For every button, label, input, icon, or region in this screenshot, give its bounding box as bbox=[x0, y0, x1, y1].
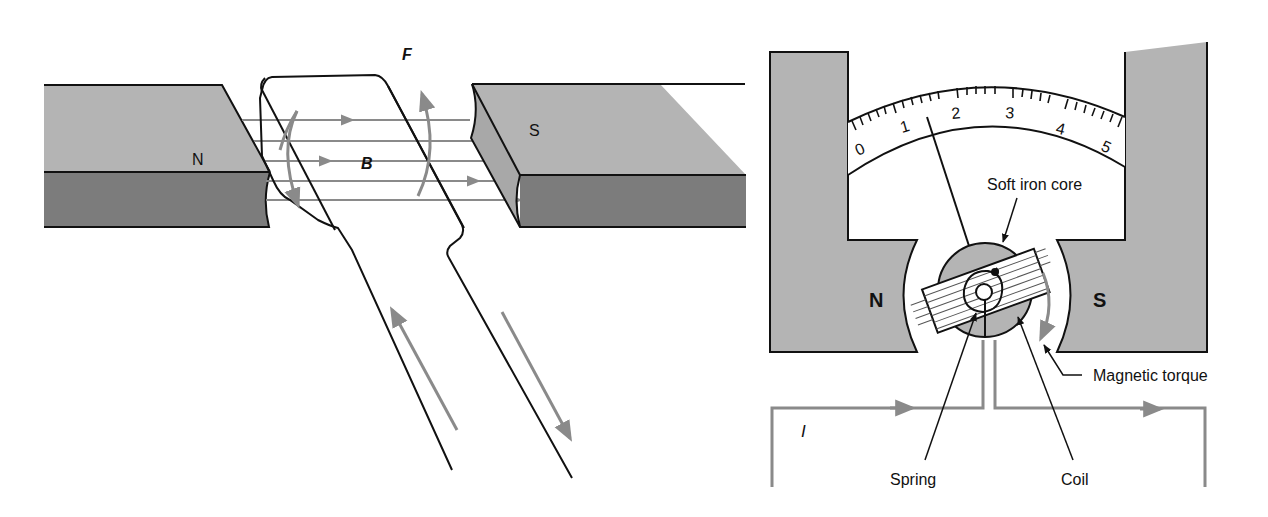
leader-spring bbox=[925, 313, 976, 460]
meter-scale: 0 1 2 3 4 5 bbox=[848, 86, 1125, 175]
diagram-canvas: N B S bbox=[0, 0, 1268, 517]
north-pole-label: N bbox=[192, 151, 204, 168]
left-figure: N B S bbox=[44, 46, 746, 478]
scale-label-3: 3 bbox=[1005, 104, 1015, 122]
scale-label-2: 2 bbox=[951, 104, 962, 122]
current-arrow-up bbox=[392, 310, 457, 430]
callout-spring: Spring bbox=[890, 471, 936, 488]
callout-magnetic-torque: Magnetic torque bbox=[1093, 367, 1208, 384]
galvanometer-north-magnet bbox=[770, 52, 917, 352]
right-figure-galvanometer: N S bbox=[770, 42, 1208, 488]
force-label-f: F bbox=[402, 46, 413, 63]
field-label-b: B bbox=[361, 155, 373, 172]
callout-coil: Coil bbox=[1061, 471, 1089, 488]
current-label-i: I bbox=[801, 422, 806, 441]
galvanometer-south-label: S bbox=[1093, 289, 1106, 311]
south-magnet-bar: S bbox=[471, 84, 746, 227]
meter-needle bbox=[927, 117, 970, 249]
north-magnet-top-face bbox=[44, 85, 270, 172]
galvanometer-north-label: N bbox=[869, 289, 883, 311]
galvanometer-south-magnet bbox=[1057, 42, 1207, 352]
callout-soft-iron-core: Soft iron core bbox=[987, 176, 1082, 193]
current-arrow-down bbox=[502, 312, 570, 438]
circuit-wires bbox=[772, 340, 1205, 487]
north-magnet-bar: N bbox=[44, 85, 270, 227]
south-pole-label: S bbox=[529, 122, 540, 139]
leader-soft-iron-core bbox=[1003, 198, 1017, 242]
south-magnet-front-face bbox=[520, 175, 746, 227]
north-magnet-front-face bbox=[44, 172, 270, 227]
